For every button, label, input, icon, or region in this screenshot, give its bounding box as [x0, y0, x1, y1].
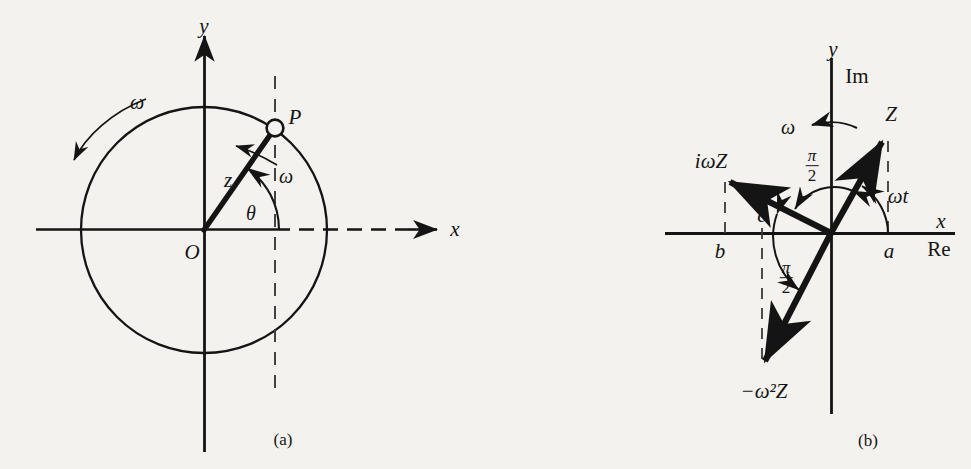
- panel-a-omega-label-inner: ω: [279, 166, 293, 186]
- panel-b-pi-over-2-upper-label: π 2: [806, 147, 819, 185]
- panel-b-vector-Z-label: Z: [885, 104, 897, 125]
- panel-b-tick-label-a: a: [884, 241, 895, 262]
- two-symbol-upper: 2: [806, 168, 819, 185]
- panel-b-caption: (b): [858, 432, 878, 449]
- panel-b-omega-t-arc: [862, 186, 888, 234]
- figure-canvas: y x O P z θ ω ω (a) y Im x Re ω Z iωZ −ω…: [0, 0, 971, 469]
- pi-symbol-upper: π: [806, 147, 819, 164]
- panel-a-caption: (a): [274, 431, 293, 448]
- panel-a-omega-label-outer: ω: [130, 92, 144, 112]
- two-symbol-lower: 2: [780, 280, 793, 297]
- panel-b-im-axis-label: Im: [845, 66, 868, 87]
- panel-a-point-p-marker: [267, 120, 284, 137]
- panel-b-omega-label: ω: [781, 117, 795, 137]
- panel-b-tick-label-b: b: [715, 241, 726, 262]
- panel-b-pi-over-2-lower-label: π 2: [780, 259, 793, 297]
- panel-a-point-p-label: P: [289, 107, 302, 128]
- panel-b-vector-i-omega-Z: [730, 182, 831, 233]
- panel-b-omega-t-label: ωt: [888, 186, 909, 207]
- panel-b-graphics: [665, 58, 955, 414]
- panel-b-re-axis-label: Re: [927, 239, 950, 260]
- panel-b-x-axis-label: x: [936, 211, 945, 232]
- panel-b-omega-direction-arrow: [812, 122, 857, 128]
- panel-b-y-axis-label: y: [828, 39, 837, 60]
- panel-a-x-axis-label: x: [450, 219, 459, 240]
- pi-symbol-lower: π: [780, 259, 793, 276]
- panel-a-graphics: [36, 36, 437, 452]
- panel-b-vector-i-omega-Z-label: iωZ: [695, 151, 727, 172]
- panel-a-origin-label: O: [184, 242, 199, 263]
- panel-b-tick-label-c: c: [757, 205, 766, 226]
- panel-b-vector-minus-omega-squared-Z-label: −ω²Z: [741, 381, 788, 402]
- panel-a-theta-label: θ: [246, 203, 256, 223]
- panel-a-vector-z-label: z: [224, 170, 232, 191]
- diagram-vector-graphics: [0, 0, 971, 469]
- panel-a-y-axis-label: y: [199, 16, 208, 37]
